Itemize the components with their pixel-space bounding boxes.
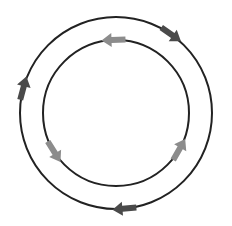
- clockwise-arrow-icon: [112, 201, 137, 217]
- counter-clockwise-arrow-icon: [101, 33, 125, 48]
- inner-ring-arrows: [42, 33, 191, 166]
- cycle-diagram: [0, 0, 232, 226]
- outer-ring: [20, 17, 212, 209]
- clockwise-arrow-icon: [13, 75, 33, 102]
- outer-ring-arrows: [13, 22, 185, 217]
- concentric-cycle-diagram: [0, 0, 232, 226]
- counter-clockwise-arrow-icon: [167, 136, 191, 164]
- inner-ring: [43, 40, 189, 186]
